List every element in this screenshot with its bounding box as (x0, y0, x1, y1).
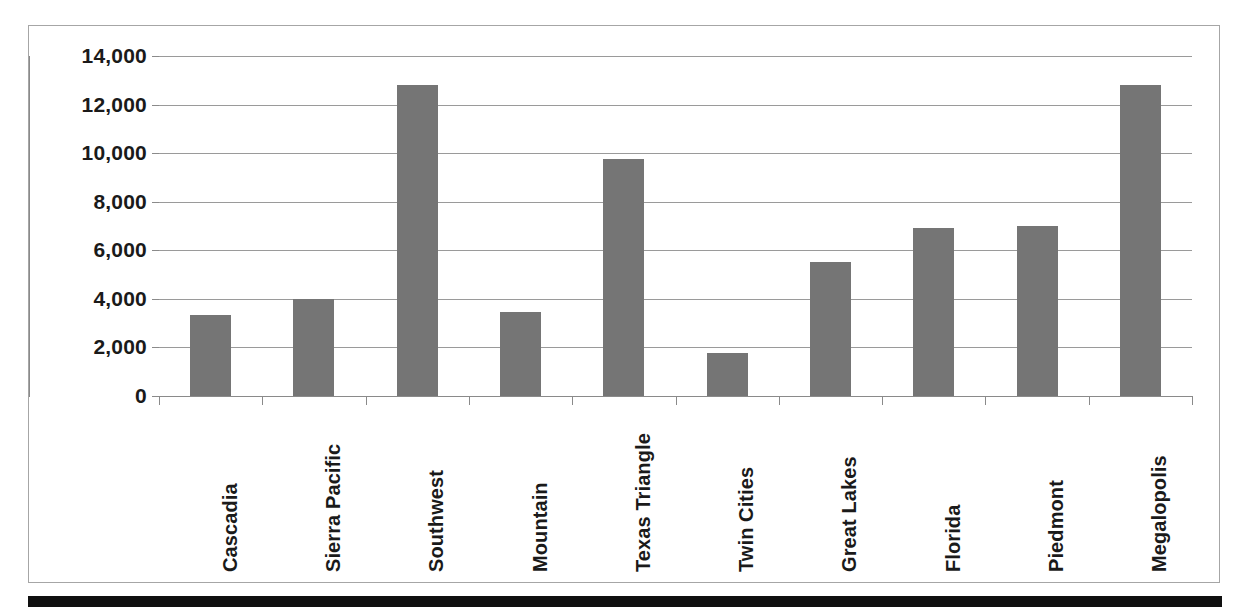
y-axis-tick (152, 299, 159, 300)
plot-area (159, 56, 1192, 396)
y-axis-tick-label: 8,000 (29, 190, 147, 214)
bar (707, 353, 748, 396)
y-axis-tick (152, 396, 159, 397)
y-axis-tick (152, 56, 159, 57)
bar (1120, 85, 1161, 396)
x-axis-category-label: Twin Cities (735, 467, 758, 572)
bar-series (159, 56, 1192, 396)
bar (1017, 226, 1058, 396)
y-axis-tick-label: 10,000 (29, 141, 147, 165)
bar (810, 262, 851, 396)
y-axis-tick-label: 4,000 (29, 287, 147, 311)
y-axis-tick (152, 153, 159, 154)
x-axis-category-label: Sierra Pacific (322, 444, 345, 572)
bar (190, 315, 231, 396)
y-axis-tick (152, 105, 159, 106)
bottom-black-strip (28, 596, 1222, 607)
bar (500, 312, 541, 397)
x-axis-category-label: Texas Triangle (632, 433, 655, 572)
y-axis-tick (152, 202, 159, 203)
y-axis-tick-label: 0 (29, 384, 147, 408)
x-axis-category-label: Florida (942, 505, 965, 572)
chart-screenshot: 02,0004,0006,0008,00010,00012,00014,000 … (0, 0, 1247, 607)
bar (293, 299, 334, 396)
x-axis-category-label: Great Lakes (838, 456, 861, 572)
x-axis-tick (1192, 396, 1193, 405)
x-axis-category-label: Piedmont (1045, 480, 1068, 572)
bar (397, 85, 438, 396)
x-axis-category-label: Mountain (529, 482, 552, 572)
chart-frame: 02,0004,0006,0008,00010,00012,00014,000 … (28, 25, 1220, 583)
y-axis-line (29, 56, 30, 397)
y-axis-tick (152, 347, 159, 348)
bar (603, 159, 644, 396)
plot-wrapper: 02,0004,0006,0008,00010,00012,00014,000 … (29, 26, 1221, 584)
x-axis-category-label: Cascadia (219, 483, 242, 572)
y-axis-tick-label: 2,000 (29, 335, 147, 359)
y-axis-tick-labels: 02,0004,0006,0008,00010,00012,00014,000 (29, 26, 147, 584)
x-axis-category-label: Megalopolis (1148, 455, 1171, 572)
y-axis-tick (152, 250, 159, 251)
y-axis-tick-label: 14,000 (29, 44, 147, 68)
x-axis-category-labels: CascadiaSierra PacificSouthwestMountainT… (159, 404, 1192, 579)
x-axis-category-label: Southwest (425, 470, 448, 572)
y-axis-tick-label: 12,000 (29, 93, 147, 117)
y-axis-tick-label: 6,000 (29, 238, 147, 262)
bar (913, 228, 954, 396)
